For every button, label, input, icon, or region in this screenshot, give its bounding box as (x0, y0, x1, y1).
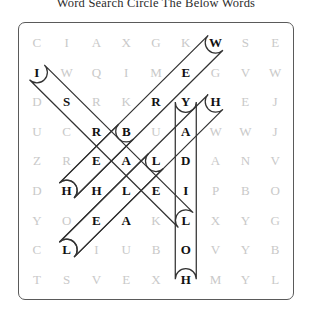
grid-cell[interactable]: I (111, 58, 141, 88)
grid-cell[interactable]: W (201, 28, 231, 58)
grid-cell[interactable]: S (52, 264, 82, 294)
grid-cell[interactable]: V (201, 235, 231, 265)
grid-cell[interactable]: U (22, 117, 52, 147)
grid-cell[interactable]: S (230, 28, 260, 58)
grid-cell[interactable]: R (82, 117, 112, 147)
grid-cell[interactable]: Y (22, 205, 52, 235)
grid-cell[interactable]: Y (230, 205, 260, 235)
grid-cell[interactable]: H (52, 176, 82, 206)
grid-cell[interactable]: R (82, 87, 112, 117)
grid-cell[interactable]: D (22, 176, 52, 206)
grid-cell[interactable]: A (111, 146, 141, 176)
word-search-grid: CIAXGKWSEIWQIMEGVWDSRKRYHEJUCRBUAWWJZREA… (18, 22, 294, 300)
grid-cell[interactable]: X (141, 264, 171, 294)
grid-cell[interactable]: O (171, 235, 201, 265)
grid-cell[interactable]: K (141, 205, 171, 235)
grid-cell[interactable]: L (260, 264, 290, 294)
grid-cell[interactable]: R (52, 146, 82, 176)
grid-cell[interactable]: K (171, 28, 201, 58)
grid-cell[interactable]: G (201, 58, 231, 88)
grid-cell[interactable]: V (82, 264, 112, 294)
grid-cell[interactable]: E (111, 264, 141, 294)
grid-cell[interactable]: E (82, 146, 112, 176)
grid-cell[interactable]: L (171, 205, 201, 235)
grid-cell[interactable]: M (201, 264, 231, 294)
grid-cell[interactable]: J (260, 87, 290, 117)
grid-cell[interactable]: Z (22, 146, 52, 176)
grid-cell[interactable]: H (201, 87, 231, 117)
grid-cell[interactable]: M (141, 58, 171, 88)
grid-cell[interactable]: E (230, 87, 260, 117)
grid-cell[interactable]: E (171, 58, 201, 88)
grid-cell[interactable]: L (141, 146, 171, 176)
grid-cell[interactable]: W (230, 117, 260, 147)
grid-cell[interactable]: C (22, 28, 52, 58)
grid-cell[interactable]: W (52, 58, 82, 88)
grid-cell[interactable]: Q (82, 58, 112, 88)
grid-cell[interactable]: X (201, 205, 231, 235)
grid-cell[interactable]: E (260, 28, 290, 58)
grid-cell[interactable]: D (22, 87, 52, 117)
grid-cell[interactable]: I (171, 176, 201, 206)
grid-cell[interactable]: I (22, 58, 52, 88)
grid-cell[interactable]: Y (230, 235, 260, 265)
grid-cell[interactable]: P (201, 176, 231, 206)
grid-cell[interactable]: Y (230, 264, 260, 294)
grid-cell[interactable]: L (52, 235, 82, 265)
grid-cell[interactable]: C (52, 117, 82, 147)
grid-cell[interactable]: B (141, 235, 171, 265)
grid-cell[interactable]: G (260, 205, 290, 235)
grid-cell[interactable]: U (111, 235, 141, 265)
grid-cell[interactable]: J (260, 117, 290, 147)
grid-cell[interactable]: B (230, 176, 260, 206)
grid-cell[interactable]: B (111, 117, 141, 147)
page-title: Word Search Circle The Below Words (0, 0, 312, 11)
grid-cell[interactable]: W (260, 58, 290, 88)
grid-cell[interactable]: B (260, 235, 290, 265)
grid-cell[interactable]: S (52, 87, 82, 117)
grid-cell[interactable]: K (111, 87, 141, 117)
grid-cell[interactable]: V (230, 58, 260, 88)
grid-cell[interactable]: A (171, 117, 201, 147)
grid-cell[interactable]: H (171, 264, 201, 294)
grid-cell[interactable]: R (141, 87, 171, 117)
grid-cell[interactable]: O (260, 176, 290, 206)
grid-cell[interactable]: Y (171, 87, 201, 117)
grid-cell[interactable]: A (201, 146, 231, 176)
grid-cell[interactable]: G (141, 28, 171, 58)
grid-cell[interactable]: I (52, 28, 82, 58)
grid-cell[interactable]: X (111, 28, 141, 58)
grid-cell[interactable]: V (260, 146, 290, 176)
grid-cell[interactable]: D (171, 146, 201, 176)
grid-cell[interactable]: N (230, 146, 260, 176)
grid-cell[interactable]: U (141, 117, 171, 147)
grid-cell[interactable]: E (82, 205, 112, 235)
word-search-grid-wrapper: CIAXGKWSEIWQIMEGVWDSRKRYHEJUCRBUAWWJZREA… (18, 22, 294, 300)
grid-cell[interactable]: T (22, 264, 52, 294)
grid-cell[interactable]: L (111, 176, 141, 206)
grid-cell[interactable]: O (52, 205, 82, 235)
grid-cell[interactable]: I (82, 235, 112, 265)
grid-cell[interactable]: C (22, 235, 52, 265)
grid-cell[interactable]: H (82, 176, 112, 206)
grid-cell[interactable]: A (82, 28, 112, 58)
grid-cell[interactable]: E (141, 176, 171, 206)
grid-cell[interactable]: A (111, 205, 141, 235)
grid-cell[interactable]: W (201, 117, 231, 147)
